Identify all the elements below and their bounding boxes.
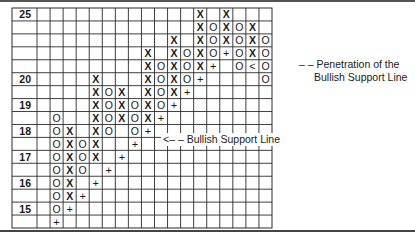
point-and-figure-chart: 25201918171615XXXOXOXXXOXOXOXXOXO+OXOXOX… <box>0 0 415 241</box>
annotation-penetration-line2: Bullish Support Line <box>299 71 407 84</box>
price-label: 19 <box>19 99 31 111</box>
price-label: 25 <box>19 8 31 20</box>
o-box: O <box>131 99 139 111</box>
x-box: X <box>92 73 99 85</box>
support-line-mark: + <box>158 112 164 124</box>
o-box: O <box>105 125 113 137</box>
support-line-mark: + <box>171 99 177 111</box>
support-line-mark: + <box>53 216 59 228</box>
x-box: X <box>118 112 125 124</box>
support-line-mark: + <box>145 125 151 137</box>
x-box: X <box>249 47 256 59</box>
x-box: X <box>92 99 99 111</box>
o-box: O <box>235 47 243 59</box>
o-box: O <box>183 73 191 85</box>
o-box: O <box>183 47 191 59</box>
o-box: O <box>52 138 60 150</box>
x-box: X <box>171 86 178 98</box>
x-box: X <box>197 60 204 72</box>
o-box: O <box>131 112 139 124</box>
o-box: O <box>183 60 191 72</box>
x-box: X <box>249 21 256 33</box>
o-box: O <box>52 190 60 202</box>
o-box: O <box>105 99 113 111</box>
support-line-mark: + <box>210 60 216 72</box>
o-box: O <box>52 203 60 215</box>
price-label: 18 <box>19 125 31 137</box>
annotation-penetration: – – Penetration of the Bullish Support L… <box>299 58 407 84</box>
o-box: O <box>209 21 217 33</box>
annotation-penetration-line1: – – Penetration of the <box>299 58 399 70</box>
x-box: X <box>144 99 151 111</box>
price-label: 17 <box>19 151 31 163</box>
x-box: X <box>223 21 230 33</box>
o-box: O <box>157 99 165 111</box>
x-box: X <box>66 125 73 137</box>
x-box: X <box>197 21 204 33</box>
support-line-mark: + <box>66 203 72 215</box>
o-box: O <box>235 34 243 46</box>
x-box: X <box>249 34 256 46</box>
x-box: X <box>171 34 178 46</box>
x-box: X <box>144 86 151 98</box>
x-box: X <box>223 34 230 46</box>
annotation-bullish-support-line: <– – Bullish Support Line <box>161 133 282 146</box>
o-box: O <box>105 86 113 98</box>
x-box: X <box>66 151 73 163</box>
o-box: O <box>261 47 269 59</box>
o-box: O <box>52 112 60 124</box>
support-line-mark: + <box>93 177 99 189</box>
x-box: X <box>144 112 151 124</box>
o-box: O <box>79 151 87 163</box>
o-box: O <box>209 34 217 46</box>
price-label: 15 <box>19 203 31 215</box>
support-line-mark: + <box>119 151 125 163</box>
x-box: X <box>66 164 73 176</box>
x-box: X <box>66 177 73 189</box>
bottom-divider <box>0 230 415 232</box>
x-box: X <box>118 99 125 111</box>
o-box: O <box>52 125 60 137</box>
penetration-arrow: < <box>249 60 255 72</box>
o-box: O <box>261 34 269 46</box>
o-box: O <box>52 151 60 163</box>
x-box: X <box>144 73 151 85</box>
o-box: O <box>157 73 165 85</box>
x-box: X <box>144 47 151 59</box>
x-box: X <box>66 190 73 202</box>
price-label: 16 <box>19 177 31 189</box>
price-label: 20 <box>19 73 31 85</box>
x-box: X <box>92 86 99 98</box>
x-box: X <box>171 47 178 59</box>
support-line-mark: + <box>79 190 85 202</box>
o-box: O <box>79 164 87 176</box>
o-box: O <box>261 60 269 72</box>
x-box: X <box>92 151 99 163</box>
o-box: O <box>235 60 243 72</box>
x-box: X <box>223 8 230 20</box>
x-box: X <box>118 86 125 98</box>
x-box: X <box>66 138 73 150</box>
support-line-mark: + <box>184 86 190 98</box>
o-box: O <box>131 125 139 137</box>
x-box: X <box>197 47 204 59</box>
o-box: O <box>52 164 60 176</box>
o-box: O <box>52 177 60 189</box>
x-box: X <box>197 8 204 20</box>
o-box: O <box>235 21 243 33</box>
x-box: X <box>92 112 99 124</box>
support-line-mark: + <box>223 47 229 59</box>
x-box: X <box>144 60 151 72</box>
x-box: X <box>197 34 204 46</box>
x-box: X <box>92 125 99 137</box>
o-box: O <box>209 47 217 59</box>
x-box: X <box>92 138 99 150</box>
o-box: O <box>261 73 269 85</box>
o-box: O <box>79 138 87 150</box>
o-box: O <box>157 60 165 72</box>
o-box: O <box>157 86 165 98</box>
x-box: X <box>171 73 178 85</box>
o-box: O <box>105 112 113 124</box>
x-box: X <box>171 60 178 72</box>
support-line-mark: + <box>197 73 203 85</box>
